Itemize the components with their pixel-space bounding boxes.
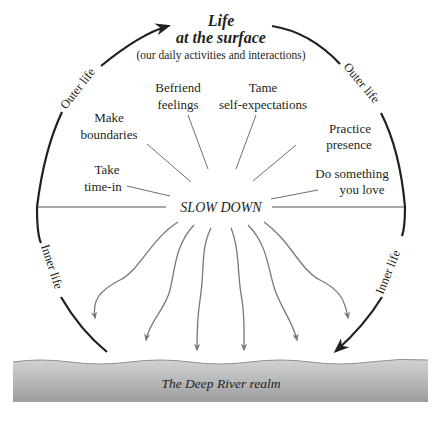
svg-text:Tame: Tame bbox=[249, 80, 278, 95]
svg-text:presence: presence bbox=[326, 137, 372, 152]
svg-text:self-expectations: self-expectations bbox=[219, 97, 307, 112]
title-line-1: Life bbox=[207, 12, 235, 30]
title-line-2: at the surface bbox=[176, 29, 266, 47]
flow-arrow-4 bbox=[231, 228, 244, 350]
slow-down-label: SLOW DOWN bbox=[180, 200, 262, 215]
flow-arrow-5 bbox=[248, 225, 297, 340]
title-subtitle: (our daily activities and interactions) bbox=[136, 49, 305, 62]
svg-text:time-in: time-in bbox=[84, 179, 122, 194]
practice-take-time-in: Take time-in bbox=[84, 162, 170, 196]
flow-arrow-3 bbox=[197, 228, 211, 350]
inner-life-arc bbox=[37, 207, 405, 352]
flow-arrow-2 bbox=[146, 225, 194, 340]
svg-text:feelings: feelings bbox=[157, 97, 198, 112]
svg-text:Do something: Do something bbox=[315, 166, 389, 181]
svg-text:you love: you love bbox=[339, 182, 384, 197]
practice-do-something-you-love: Do something you love bbox=[271, 166, 389, 199]
flow-arrow-6 bbox=[264, 222, 348, 318]
practice-befriend-feelings: Befriend feelings bbox=[155, 80, 208, 169]
svg-text:Take: Take bbox=[94, 162, 119, 177]
inner-life-left-label: Inner life bbox=[38, 243, 66, 292]
outer-life-right-label: Outer life bbox=[341, 60, 383, 106]
practice-tame-self-expectations: Tame self-expectations bbox=[219, 80, 307, 169]
deep-river-label: The Deep River realm bbox=[161, 376, 280, 391]
svg-text:boundaries: boundaries bbox=[80, 127, 137, 142]
inner-life-right-label: Inner life bbox=[373, 248, 403, 296]
deep-river-diagram: Outer life Outer life Inner life Inner l… bbox=[0, 0, 446, 423]
flow-arrow-1 bbox=[94, 222, 178, 318]
svg-text:Practice: Practice bbox=[329, 121, 371, 136]
outer-life-left-label: Outer life bbox=[57, 65, 98, 112]
svg-text:Make: Make bbox=[94, 110, 124, 125]
flow-arrows bbox=[94, 222, 348, 350]
svg-text:Befriend: Befriend bbox=[155, 80, 201, 95]
